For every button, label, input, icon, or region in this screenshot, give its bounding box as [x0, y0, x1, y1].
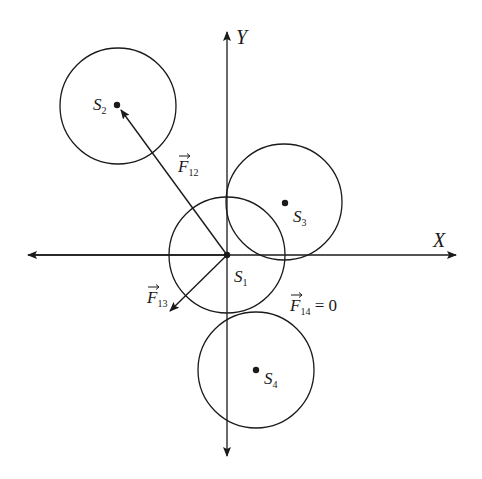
svg-text:F12: F12: [177, 157, 198, 178]
label-s1: S1: [234, 267, 248, 288]
force-label-f13: F13: [146, 285, 167, 310]
force-label-f14: F14 = 0: [289, 293, 337, 318]
svg-text:F13: F13: [146, 288, 167, 309]
force-diagram: X Y S1 S2 S3 S4 F12 F13 F14 = 0: [0, 0, 482, 479]
force-arrow-f13: [170, 255, 227, 311]
label-s2: S2: [93, 95, 107, 116]
svg-text:F14 = 0: F14 = 0: [289, 296, 337, 317]
center-dot-s2: [114, 102, 120, 108]
y-axis-label: Y: [236, 26, 249, 48]
center-dot-s3: [282, 200, 288, 206]
label-s3: S3: [293, 207, 307, 228]
center-dot-s4: [253, 367, 259, 373]
label-s4: S4: [264, 369, 278, 390]
force-label-f12: F12: [177, 154, 198, 179]
x-axis-label: X: [432, 229, 446, 251]
force-arrow-f12: [121, 110, 227, 255]
